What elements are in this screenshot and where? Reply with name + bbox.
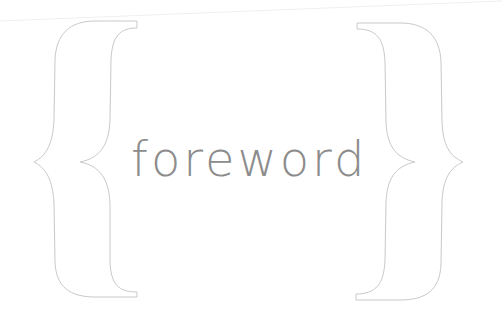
top-edge-line [0, 1, 502, 21]
foreword-page: foreword [0, 0, 502, 321]
page-title: foreword [131, 128, 367, 190]
left-brace-icon [34, 21, 137, 297]
right-brace-icon [356, 23, 463, 300]
